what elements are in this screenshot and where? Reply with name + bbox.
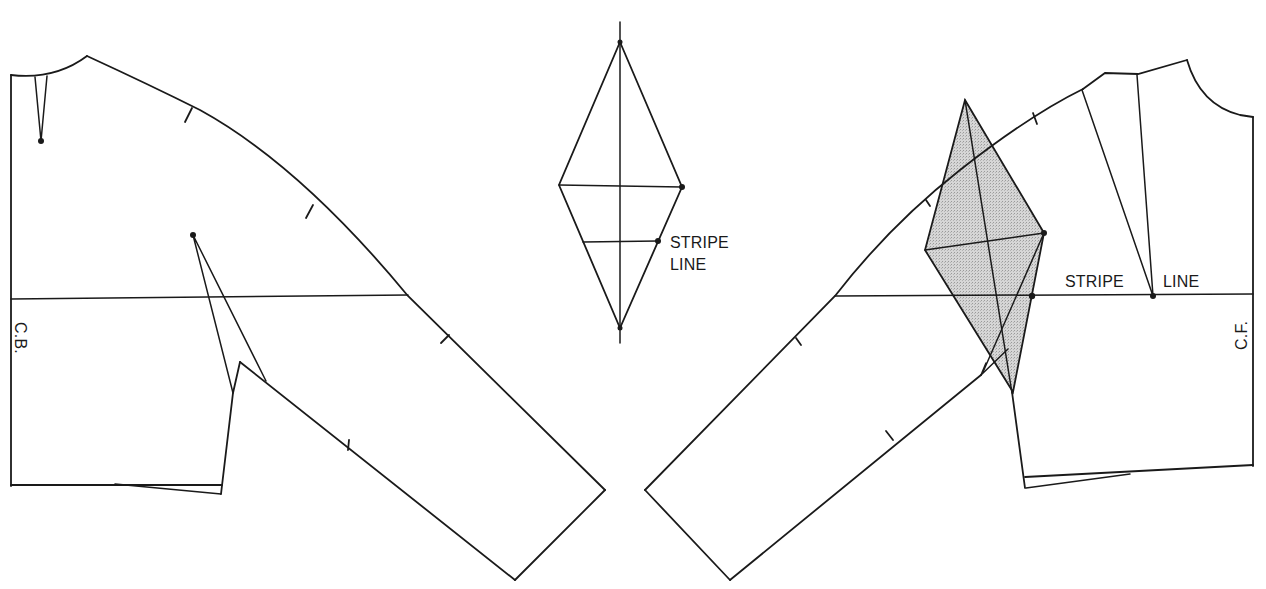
center-front-label: C.F. [1233, 321, 1250, 350]
front-dart-leg [1137, 75, 1153, 296]
front-stripe-line [835, 294, 1253, 296]
sleeve-cuff-edge [515, 490, 605, 580]
front-pattern-piece: STRIPE LINE C.F. [645, 60, 1253, 580]
stripe-label-line2: LINE [670, 256, 706, 273]
diamond-bottom-point [618, 326, 623, 331]
notch-mark [886, 431, 893, 440]
pattern-diagram: C.B. STRIPE LINE [0, 0, 1266, 589]
diamond-top-point [618, 40, 623, 45]
diamond-right-point [679, 184, 685, 190]
notch-mark [796, 338, 801, 345]
notch-mark [926, 200, 930, 206]
front-neckline [1187, 60, 1253, 117]
front-stripe-label: STRIPE [1065, 273, 1124, 290]
front-line-label: LINE [1163, 273, 1199, 290]
sleeve-top-edge [87, 56, 605, 490]
back-neck-dart [35, 76, 47, 141]
front-dart-leg [1082, 90, 1153, 296]
diamond-crossline [559, 185, 682, 187]
front-sleeve-underarm-edge [730, 375, 981, 580]
front-shoulder [1083, 60, 1187, 89]
underarm-dart [193, 235, 266, 393]
front-sleeve-cuff [645, 490, 730, 580]
underarm-dart-point [190, 232, 196, 238]
gusset-stripe-point [1029, 293, 1035, 299]
notch-mark [441, 335, 449, 343]
gusset-right-point [1041, 230, 1047, 236]
stripe-label-line1: STRIPE [670, 234, 729, 251]
shaded-gusset [925, 100, 1044, 392]
diamond-stripe-line [583, 241, 658, 242]
front-hem [1025, 465, 1253, 477]
notch-mark [185, 108, 192, 122]
diamond-stripe-point [655, 238, 661, 244]
back-pattern-piece: C.B. [11, 56, 605, 580]
neck-dart-point [38, 138, 44, 144]
center-back-label: C.B. [12, 322, 29, 354]
back-neckline [11, 56, 87, 76]
sleeve-underarm-edge [240, 362, 515, 580]
diamond-insert-piece: STRIPE LINE [559, 22, 729, 343]
notch-mark [306, 205, 313, 218]
notch-mark [348, 440, 349, 450]
front-side-seam [1012, 392, 1025, 488]
